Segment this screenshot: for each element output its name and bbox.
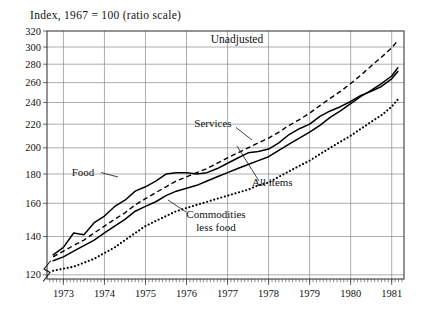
chart-plot: 120140160180200220240260280300320 197319… [0, 0, 427, 314]
y-tick-label: 140 [25, 231, 41, 242]
y-tick-label: 240 [25, 97, 41, 108]
y-tick-label: 200 [25, 142, 41, 153]
y-tick-label: 260 [25, 77, 41, 88]
y-tick-label: 300 [25, 42, 41, 53]
y-tick-label: 320 [25, 26, 41, 37]
x-tick-label: 1980 [340, 288, 361, 299]
series-label-commodities-line1: Commodities [186, 208, 245, 220]
series-label-services: Services [194, 117, 231, 129]
y-tick-label: 220 [25, 119, 41, 130]
y-tick-label: 280 [25, 59, 41, 70]
x-tick-label: 1976 [176, 288, 197, 299]
y-axis-labels: 120140160180200220240260280300320 [25, 26, 41, 281]
x-tick-label: 1977 [217, 288, 238, 299]
gridlines [47, 31, 404, 279]
food-leader-line [101, 173, 118, 178]
x-tick-label: 1981 [381, 288, 402, 299]
y-tick-marks [43, 31, 47, 275]
inner-chart-title: Unadjusted [211, 33, 264, 46]
commodities-leader-line [168, 200, 186, 212]
y-tick-label: 160 [25, 198, 41, 209]
series-label-all-items: All items [252, 176, 293, 188]
x-tick-label: 1978 [258, 288, 279, 299]
services-leader-line [236, 128, 252, 141]
series-label-food: Food [72, 166, 95, 178]
x-tick-label: 1979 [299, 288, 320, 299]
x-tick-label: 1975 [135, 288, 156, 299]
x-axis-labels: 197319741975197619771978197919801981 [53, 288, 402, 299]
y-tick-label: 120 [25, 269, 41, 280]
y-tick-label: 180 [25, 169, 41, 180]
x-tick-label: 1973 [53, 288, 74, 299]
series-label-commodities-line2: less food [196, 221, 236, 233]
figure-container: Index, 1967 = 100 (ratio scale) 12014016… [0, 0, 427, 314]
x-tick-label: 1974 [94, 288, 116, 299]
